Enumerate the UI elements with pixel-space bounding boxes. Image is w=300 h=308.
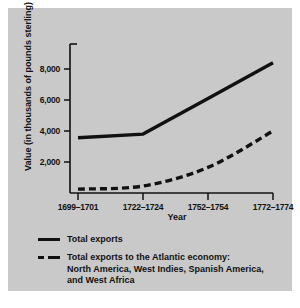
x-tick-label-1722-1724: 1722–1724 (108, 202, 178, 212)
y-axis-title: Value (in thousands of pounds sterling) (23, 11, 33, 171)
legend-label-line-2: North America, West Indies, Spanish Amer… (67, 264, 264, 274)
legend-item-atlantic-economy: Total exports to the Atlantic economy: N… (38, 252, 288, 287)
y-axis-ticks (64, 69, 70, 162)
legend-label-line-1: Total exports to the Atlantic economy: (67, 252, 230, 262)
legend-solid-line-icon (38, 234, 60, 246)
x-axis-ticks (78, 193, 273, 200)
legend-label-atlantic-economy: Total exports to the Atlantic economy: N… (67, 252, 264, 287)
legend-label-total-exports: Total exports (67, 234, 123, 246)
x-axis-title: Year (62, 212, 292, 222)
x-tick-label-1699-1701: 1699–1701 (43, 202, 113, 212)
chart-figure-panel: 8,000 6,000 4,000 2,000 1699–1701 1722–1… (8, 8, 292, 291)
x-tick-label-1752-1754: 1752–1754 (173, 202, 243, 212)
legend-item-total-exports: Total exports (38, 234, 288, 246)
series-line-total-exports (78, 63, 273, 138)
series-line-atlantic-economy (78, 131, 273, 189)
legend-label-line-3: and West Africa (67, 275, 135, 285)
plot-stage: 8,000 6,000 4,000 2,000 1699–1701 1722–1… (8, 8, 292, 291)
x-tick-label-1772-1774: 1772–1774 (238, 202, 300, 212)
chart-legend: Total exports Total exports to the Atlan… (38, 234, 288, 293)
legend-dashed-line-icon (38, 252, 60, 264)
